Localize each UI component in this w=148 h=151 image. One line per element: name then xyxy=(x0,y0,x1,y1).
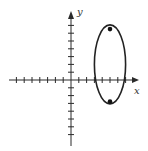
ellipse-curve xyxy=(94,25,125,104)
focus-point-top xyxy=(108,27,113,32)
x-axis-label: x xyxy=(134,85,140,96)
y-axis-arrow-icon xyxy=(68,11,74,19)
y-axis: y xyxy=(68,6,83,146)
y-axis-label: y xyxy=(76,6,83,17)
x-axis-arrow-icon xyxy=(132,77,139,83)
focus-point-bottom xyxy=(108,99,113,104)
ellipse-diagram: x y xyxy=(0,0,148,151)
coordinate-plane: x y xyxy=(0,0,148,151)
